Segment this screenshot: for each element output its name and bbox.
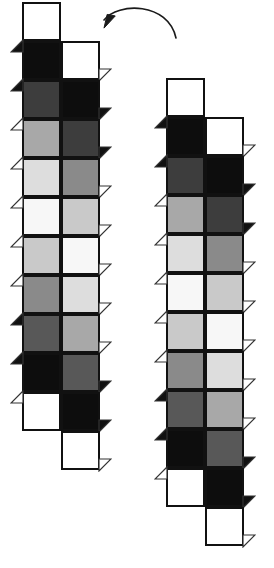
strip-cell [205,117,244,156]
strip-cell [61,431,100,470]
strip-cell [166,351,205,390]
hinge-tab-right-icon [98,458,112,472]
strip-cell [166,390,205,429]
arrow-shaft [104,8,176,38]
hinge-tab-right-icon [98,341,112,355]
hinge-tab-left-icon [154,115,168,129]
hinge-tab-right-icon [98,263,112,277]
strip-cell [61,353,100,392]
diagram-canvas [0,0,274,568]
hinge-tab-left-icon [154,154,168,168]
strip-cell [166,78,205,117]
strip-cell [205,195,244,234]
hinge-tab-left-icon [10,390,24,404]
hinge-tab-right-icon [242,222,256,236]
hinge-tab-left-icon [154,310,168,324]
hinge-tab-right-icon [98,107,112,121]
hinge-tab-left-icon [10,351,24,365]
hinge-tab-right-icon [242,495,256,509]
hinge-tab-right-icon [98,224,112,238]
hinge-tab-left-icon [154,388,168,402]
hinge-tab-left-icon [154,271,168,285]
hinge-tab-left-icon [10,273,24,287]
strip-cell [166,468,205,507]
strip-cell [205,312,244,351]
strip-cell [22,353,61,392]
strip-cell [61,158,100,197]
hinge-tab-right-icon [242,339,256,353]
strip-cell [22,119,61,158]
strip-cell [166,429,205,468]
hinge-tab-left-icon [10,312,24,326]
strip-cell [22,80,61,119]
hinge-tab-left-icon [154,349,168,363]
hinge-tab-right-icon [242,261,256,275]
strip-cell [205,468,244,507]
hinge-tab-right-icon [242,300,256,314]
strip-cell [22,2,61,41]
strip-cell [166,195,205,234]
strip-cell [61,236,100,275]
strip-cell [61,392,100,431]
strip-cell [61,80,100,119]
arrow-head-icon [104,14,115,28]
strip-cell [22,236,61,275]
strip-cell [205,156,244,195]
strip-cell [205,234,244,273]
strip-cell [166,234,205,273]
hinge-tab-right-icon [242,144,256,158]
hinge-tab-right-icon [98,302,112,316]
strip-cell [22,275,61,314]
strip-cell [166,312,205,351]
strip-cell [61,275,100,314]
strip-cell [205,273,244,312]
strip-cell [205,351,244,390]
strip-cell [205,507,244,546]
hinge-tab-right-icon [242,378,256,392]
hinge-tab-left-icon [10,195,24,209]
strip-cell [22,392,61,431]
hinge-tab-right-icon [242,183,256,197]
hinge-tab-right-icon [242,534,256,548]
hinge-tab-right-icon [242,417,256,431]
hinge-tab-left-icon [10,117,24,131]
strip-cell [166,156,205,195]
strip-cell [22,314,61,353]
hinge-tab-left-icon [10,234,24,248]
strip-cell [205,390,244,429]
strip-cell [166,273,205,312]
hinge-tab-left-icon [10,156,24,170]
strip-cell [61,119,100,158]
strip-cell [22,41,61,80]
hinge-tab-left-icon [154,232,168,246]
strip-cell [22,197,61,236]
strip-cell [205,429,244,468]
hinge-tab-right-icon [98,380,112,394]
strip-cell [22,158,61,197]
hinge-tab-left-icon [10,39,24,53]
hinge-tab-left-icon [154,193,168,207]
hinge-tab-left-icon [10,78,24,92]
hinge-tab-right-icon [98,185,112,199]
strip-cell [61,314,100,353]
hinge-tab-left-icon [154,427,168,441]
hinge-tab-right-icon [98,68,112,82]
hinge-tab-right-icon [98,419,112,433]
hinge-tab-left-icon [154,466,168,480]
strip-cell [61,41,100,80]
hinge-tab-right-icon [98,146,112,160]
hinge-tab-right-icon [242,456,256,470]
strip-cell [61,197,100,236]
strip-cell [166,117,205,156]
